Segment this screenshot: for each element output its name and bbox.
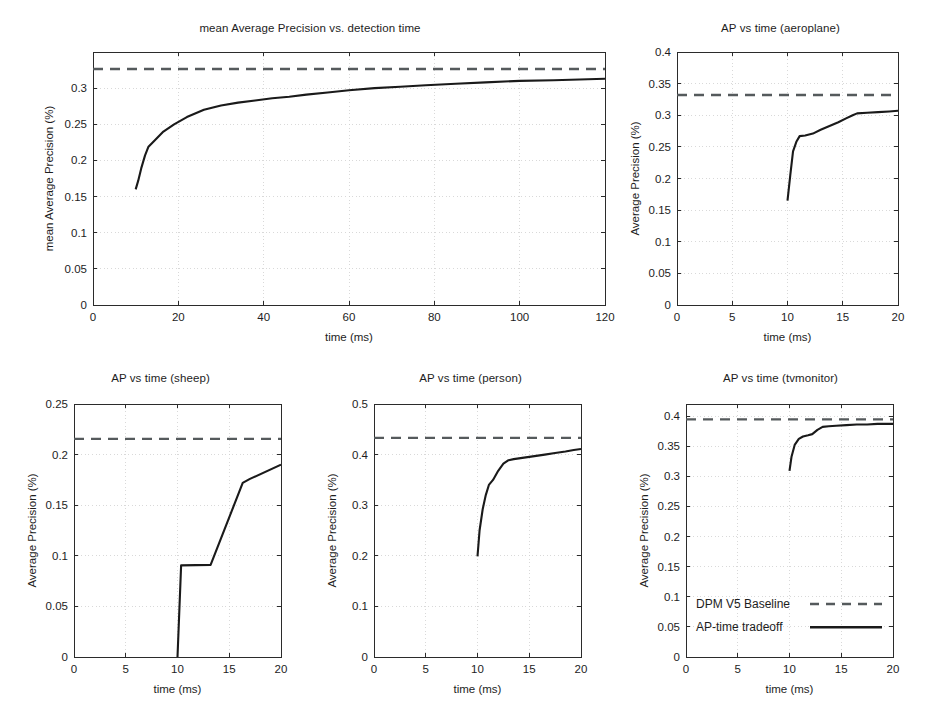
y-tick-label: 0.35: [649, 78, 671, 90]
series-layer: [686, 419, 893, 471]
x-tick-label: 0: [683, 663, 689, 675]
x-tick-label: 20: [172, 311, 185, 323]
x-tick-label: 100: [510, 311, 529, 323]
x-tick-label: 120: [595, 311, 614, 323]
y-tick-label: 0.3: [71, 82, 87, 94]
x-tick-label: 15: [835, 663, 848, 675]
plot-panel-sheep: AP vs time (sheep) 0510152000.050.10.150…: [0, 372, 321, 704]
series-layer: [677, 95, 898, 201]
gridlines: [374, 404, 581, 657]
plot-canvas: 0510152000.050.10.150.20.250.30.350.4tim…: [620, 372, 941, 704]
y-tick-label: 0: [62, 651, 68, 663]
x-axis-label: time (ms): [766, 683, 814, 695]
y-tick-label: 0.1: [71, 227, 87, 239]
plot-title: AP vs time (tvmonitor): [620, 372, 941, 384]
x-tick-label: 15: [523, 663, 536, 675]
x-axis-label: time (ms): [764, 331, 812, 343]
y-tick-label: 0.15: [46, 499, 68, 511]
gridlines: [74, 404, 281, 657]
y-tick-label: 0.1: [352, 600, 368, 612]
y-tick-label: 0: [362, 651, 368, 663]
y-tick-label: 0.25: [658, 500, 680, 512]
y-tick-label: 0.05: [65, 263, 87, 275]
x-tick-label: 15: [223, 663, 236, 675]
gridlines: [686, 404, 893, 657]
y-tick-label: 0.3: [352, 499, 368, 511]
y-axis-label: Average Precision (%): [326, 473, 338, 587]
axis-ticks: 0510152000.10.20.30.40.5: [352, 398, 587, 675]
plot-title: mean Average Precision vs. detection tim…: [0, 22, 620, 34]
y-tick-label: 0.25: [65, 118, 87, 130]
axis-ticks: 0510152000.050.10.150.20.250.30.350.4: [658, 404, 900, 675]
x-tick-label: 0: [371, 663, 377, 675]
y-tick-label: 0.5: [352, 398, 368, 410]
y-tick-label: 0.2: [664, 531, 680, 543]
gridlines: [677, 52, 898, 305]
y-tick-label: 0.05: [649, 267, 671, 279]
y-axis-label: mean Average Precision (%): [43, 106, 55, 252]
x-tick-label: 5: [729, 311, 735, 323]
x-tick-label: 10: [781, 311, 794, 323]
y-axis-label: Average Precision (%): [26, 473, 38, 587]
x-tick-label: 15: [836, 311, 849, 323]
plot-panel-person: AP vs time (person) 0510152000.10.20.30.…: [310, 372, 631, 704]
x-tick-label: 20: [275, 663, 288, 675]
x-tick-label: 80: [428, 311, 441, 323]
plot-panel-tvmonitor: AP vs time (tvmonitor) 0510152000.050.10…: [620, 372, 941, 704]
y-tick-label: 0.1: [664, 591, 680, 603]
y-tick-label: 0.2: [71, 154, 87, 166]
x-axis-label: time (ms): [325, 331, 373, 343]
y-tick-label: 0.05: [658, 621, 680, 633]
y-tick-label: 0.25: [46, 398, 68, 410]
x-tick-label: 10: [171, 663, 184, 675]
x-tick-label: 0: [674, 311, 680, 323]
x-tick-label: 0: [71, 663, 77, 675]
y-tick-label: 0.15: [65, 191, 87, 203]
plot-canvas: 0510152000.10.20.30.40.5time (ms)Average…: [310, 372, 631, 704]
y-tick-label: 0.05: [46, 600, 68, 612]
plot-panel-aeroplane: AP vs time (aeroplane) 0510152000.050.10…: [620, 22, 941, 352]
x-tick-label: 10: [783, 663, 796, 675]
y-tick-label: 0.4: [655, 46, 672, 58]
y-axis-label: Average Precision (%): [629, 121, 641, 235]
y-tick-label: 0.15: [658, 561, 680, 573]
y-tick-label: 0.1: [655, 236, 671, 248]
y-tick-label: 0.15: [649, 204, 671, 216]
plot-panel-map-vs-detection-time: mean Average Precision vs. detection tim…: [0, 22, 620, 352]
y-tick-label: 0.2: [52, 449, 68, 461]
y-tick-label: 0.1: [52, 550, 68, 562]
x-tick-label: 5: [423, 663, 429, 675]
y-tick-label: 0.3: [664, 470, 680, 482]
y-tick-label: 0: [665, 299, 671, 311]
x-tick-label: 5: [735, 663, 741, 675]
y-axis-label: Average Precision (%): [638, 473, 650, 587]
y-tick-label: 0.4: [664, 410, 681, 422]
plot-canvas: 0510152000.050.10.150.20.25time (ms)Aver…: [0, 372, 321, 704]
y-tick-label: 0.2: [655, 173, 671, 185]
plot-title: AP vs time (person): [310, 372, 631, 384]
x-tick-label: 60: [343, 311, 356, 323]
series-ap-time-tradeoff: [136, 79, 605, 190]
y-tick-label: 0.3: [655, 109, 671, 121]
x-tick-label: 20: [887, 663, 900, 675]
y-tick-label: 0: [674, 651, 680, 663]
x-axis-label: time (ms): [154, 683, 202, 695]
series-ap-time-tradeoff: [478, 449, 582, 556]
x-tick-label: 10: [471, 663, 484, 675]
y-tick-label: 0.35: [658, 440, 680, 452]
x-tick-label: 40: [257, 311, 270, 323]
y-tick-label: 0.2: [352, 550, 368, 562]
series-layer: [374, 438, 581, 556]
legend-label-baseline: DPM V5 Baseline: [696, 597, 790, 611]
y-tick-label: 0.25: [649, 141, 671, 153]
plot-title: AP vs time (sheep): [0, 372, 321, 384]
plot-title: AP vs time (aeroplane): [620, 22, 941, 34]
legend: DPM V5 BaselineAP-time tradeoff: [696, 597, 882, 634]
axis-ticks: 0510152000.050.10.150.20.250.30.350.4: [649, 46, 905, 323]
x-tick-label: 0: [90, 311, 96, 323]
x-tick-label: 5: [123, 663, 129, 675]
axis-labels: time (ms)Average Precision (%): [629, 121, 812, 343]
x-tick-label: 20: [892, 311, 905, 323]
axis-ticks: 02040608010012000.050.10.150.20.250.3: [65, 52, 615, 323]
y-tick-label: 0.4: [352, 449, 369, 461]
